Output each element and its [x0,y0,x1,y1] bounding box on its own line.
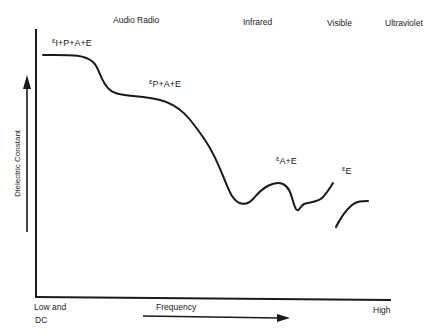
epsilon-symbol: ε [149,77,153,86]
curve-label-ipae: εI+P+A+E [52,38,92,48]
dielectric-curve [43,55,333,210]
curve-label-e: εE [342,166,352,176]
epsilon-symbol: ε [342,164,346,173]
curve-label-pae: εP+A+E [149,79,181,89]
curve-label-subscript: E [346,166,352,176]
x-axis-high-label: High [373,305,390,315]
x-axis-label: Frequency [156,302,196,312]
curve-label-subscript: P+A+E [153,79,182,89]
curve-label-ae: εA+E [276,156,297,166]
epsilon-symbol: ε [276,154,280,163]
arrow-right-icon [277,314,290,322]
region-label-ultraviolet: Ultraviolet [385,18,423,28]
y-axis-label: Dielectric Constant [13,124,22,204]
arrow-up-icon [23,75,31,89]
x-axis-dc-label: DC [35,315,47,325]
region-label-visible: Visible [327,18,352,28]
x-arrow-shaft [143,316,280,318]
x-axis [35,297,391,300]
dielectric-curve-visible [336,201,368,227]
epsilon-symbol: ε [52,36,56,45]
region-label-infrared: Infrared [243,17,272,27]
diagram-canvas [0,0,443,334]
curve-label-subscript: A+E [280,156,297,166]
curve-label-subscript: I+P+A+E [56,38,92,48]
x-axis-low-label: Low and [34,302,66,312]
region-label-audio-radio: Audio Radio [113,15,159,25]
